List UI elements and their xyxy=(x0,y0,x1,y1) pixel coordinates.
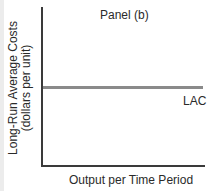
left-margin-strip xyxy=(0,0,4,191)
x-axis-label: Output per Time Period xyxy=(69,173,193,187)
lac-line xyxy=(43,86,203,89)
chart-title: Panel (b) xyxy=(100,8,149,22)
x-axis xyxy=(41,165,205,167)
lac-label: LAC xyxy=(183,94,206,108)
y-axis-label-line-2: (dollars per unit) xyxy=(20,21,33,155)
